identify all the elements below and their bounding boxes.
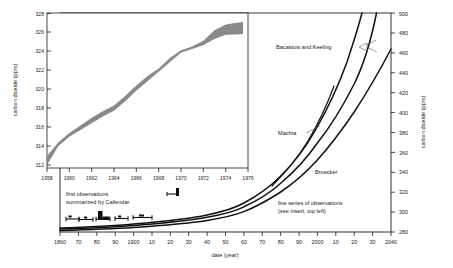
x-tick-label: 60 xyxy=(241,239,247,245)
observation-marker xyxy=(66,216,79,222)
inset-x-tick-label: 1964 xyxy=(108,175,119,181)
observation-marker xyxy=(79,217,93,222)
leader-line-bacastow-keeling-2 xyxy=(367,40,376,45)
inset-x-tick-label: 1972 xyxy=(198,175,209,181)
y-tick-label: 480 xyxy=(399,30,408,36)
main-x-axis-ticks xyxy=(60,232,391,236)
inset-y-tick-label: 318 xyxy=(36,105,45,111)
annotation-five-series: five series of observations (see insert,… xyxy=(278,200,343,214)
x-tick-label: 1860 xyxy=(54,239,66,245)
main-y-axis-ticks xyxy=(391,13,395,232)
inset-x-axis-ticks xyxy=(47,168,248,172)
main-x-axis-title: date (year) xyxy=(211,252,238,258)
bacastow-keeling-label: Bacastow and Keeling xyxy=(276,44,331,50)
inset-y-tick-label: 312 xyxy=(36,162,45,168)
y-tick-label: 400 xyxy=(399,110,408,116)
y-tick-label: 360 xyxy=(399,150,408,156)
inset-y-axis-title: carbon dioxide (ppm) xyxy=(12,64,18,117)
x-tick-label: 2040 xyxy=(385,239,397,245)
annotation-broecker: Broecker xyxy=(315,169,338,175)
inset-x-tick-label: 1970 xyxy=(175,175,186,181)
x-tick-label: 90 xyxy=(296,239,302,245)
observation-marker xyxy=(96,211,110,221)
inset-y-tick-label: 328 xyxy=(36,11,45,17)
inset-x-tick-label: 1960 xyxy=(64,175,75,181)
y-tick-label: 440 xyxy=(399,70,408,76)
y-tick-label: 300 xyxy=(399,209,408,215)
inset-y-tick-label: 322 xyxy=(36,67,45,73)
inset-x-tick-label: 1968 xyxy=(153,175,164,181)
observation-marker xyxy=(115,216,128,221)
x-tick-label: 70 xyxy=(75,239,81,245)
y-tick-label: 320 xyxy=(399,189,408,195)
chart-svg: 280 300 320 340 360 380 400 420 440 460 … xyxy=(0,0,453,268)
main-y-axis-labels: 280 300 320 340 360 380 400 420 440 460 … xyxy=(399,11,408,235)
x-tick-label: 30 xyxy=(370,239,376,245)
x-tick-label: 1900 xyxy=(128,239,140,245)
machta-label: Machta xyxy=(278,130,297,136)
x-tick-label: 10 xyxy=(333,239,339,245)
five-series-line2: (see insert, top left) xyxy=(278,208,326,214)
main-y-axis-title: carbon dioxide (ppm) xyxy=(420,96,426,149)
y-tick-label: 500 xyxy=(399,11,408,17)
inset-y-tick-label: 320 xyxy=(36,86,45,92)
x-tick-label: 30 xyxy=(186,239,192,245)
x-tick-label: 40 xyxy=(204,239,210,245)
inset-x-tick-label: 1962 xyxy=(86,175,97,181)
inset-x-tick-label: 1958 xyxy=(41,175,52,181)
y-tick-label: 340 xyxy=(399,169,408,175)
y-tick-label: 420 xyxy=(399,90,408,96)
x-tick-label: 70 xyxy=(259,239,265,245)
leader-line-bacastow-keeling xyxy=(367,47,377,52)
y-tick-label: 280 xyxy=(399,229,408,235)
inset-y-tick-label: 326 xyxy=(36,29,45,35)
x-tick-label: 20 xyxy=(351,239,357,245)
inset-x-tick-label: 1974 xyxy=(220,175,231,181)
figure-root: 280 300 320 340 360 380 400 420 440 460 … xyxy=(0,0,453,268)
inset-y-axis-labels: 312 314 316 318 320 322 324 326 328 xyxy=(36,11,45,168)
y-tick-label: 460 xyxy=(399,50,408,56)
inset-x-tick-label: 1976 xyxy=(242,175,253,181)
inset-y-tick-label: 314 xyxy=(36,143,45,149)
annotation-bacastow-keeling: Bacastow and Keeling xyxy=(276,40,377,52)
annotation-callendar: first observations summarized by Callend… xyxy=(66,191,130,205)
y-tick-label: 380 xyxy=(399,130,408,136)
callendar-line2: summarized by Callendar xyxy=(66,199,130,205)
x-tick-label: 50 xyxy=(223,239,229,245)
inset-y-tick-label: 316 xyxy=(36,124,45,130)
leader-arrow-bacastow-keeling xyxy=(359,43,367,51)
x-tick-label: 80 xyxy=(278,239,284,245)
x-tick-label: 90 xyxy=(112,239,118,245)
x-tick-label: 10 xyxy=(149,239,155,245)
inset-x-axis-labels: 1958 1960 1962 1964 1966 1968 1970 1972 … xyxy=(41,175,253,181)
inset-panel: 312 314 316 318 320 322 324 326 328 carb… xyxy=(12,11,254,181)
callendar-line1: first observations xyxy=(66,191,108,197)
observation-marker xyxy=(167,188,179,196)
main-x-axis-labels: 1860 70 80 90 1900 10 20 30 40 50 60 70 … xyxy=(54,239,397,245)
broecker-label: Broecker xyxy=(315,169,338,175)
inset-x-tick-label: 1966 xyxy=(131,175,142,181)
x-tick-label: 2000 xyxy=(311,239,323,245)
x-tick-label: 20 xyxy=(167,239,173,245)
five-series-line1: five series of observations xyxy=(278,200,343,206)
inset-y-tick-label: 324 xyxy=(36,48,45,54)
x-tick-label: 80 xyxy=(94,239,100,245)
observation-marker xyxy=(133,215,152,220)
